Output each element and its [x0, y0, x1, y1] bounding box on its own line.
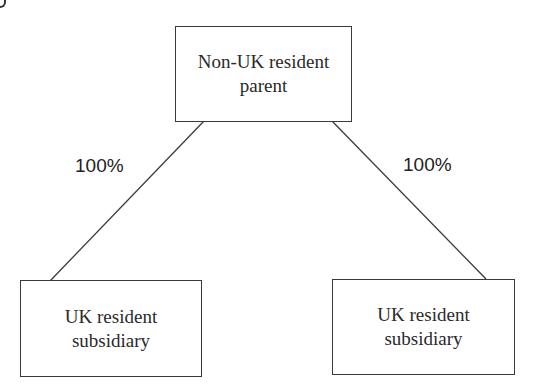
edge-parent-to-right-subsidiary: [332, 121, 486, 279]
left-subsidiary-line-1: UK resident: [65, 305, 157, 329]
left-subsidiary-line-2: subsidiary: [72, 329, 150, 353]
parent-node-line-2: parent: [240, 74, 287, 98]
ownership-diagram: Non-UK resident parent UK resident subsi…: [0, 0, 537, 392]
right-subsidiary-node: UK resident subsidiary: [332, 279, 515, 375]
right-subsidiary-line-2: subsidiary: [384, 327, 462, 351]
right-subsidiary-line-1: UK resident: [377, 303, 469, 327]
left-ownership-percentage: 100%: [75, 155, 124, 177]
right-ownership-percentage: 100%: [403, 154, 452, 176]
edge-parent-to-left-subsidiary: [50, 121, 204, 281]
parent-node: Non-UK resident parent: [175, 26, 352, 122]
parent-node-line-1: Non-UK resident: [198, 50, 329, 74]
left-subsidiary-node: UK resident subsidiary: [20, 280, 202, 377]
